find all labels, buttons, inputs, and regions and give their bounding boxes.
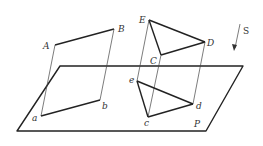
edge-ED	[149, 20, 205, 42]
edge-AB	[55, 29, 114, 45]
edge-CD	[161, 42, 205, 55]
label-E: E	[138, 15, 146, 25]
projector-A-a	[41, 45, 55, 116]
label-d: d	[196, 101, 202, 111]
label-b: b	[102, 101, 108, 111]
edge-ab	[41, 100, 100, 116]
projector-E-e	[137, 20, 149, 81]
label-C: C	[150, 56, 157, 66]
label-A: A	[42, 41, 50, 51]
diagram-canvas: A B a b E C D e c d P S	[0, 0, 263, 146]
projector-D-d	[193, 42, 205, 104]
edge-ed	[137, 81, 193, 104]
edge-EC	[149, 20, 161, 55]
projector-B-b	[100, 29, 114, 100]
direction-arrow-head	[232, 44, 237, 51]
direction-arrow-shaft	[235, 24, 240, 48]
label-a: a	[32, 113, 37, 123]
projection-diagram: A B a b E C D e c d P S	[0, 0, 263, 146]
label-P: P	[193, 119, 201, 129]
label-e: e	[129, 75, 134, 85]
label-D: D	[206, 38, 214, 48]
label-c: c	[144, 118, 149, 128]
label-B: B	[117, 24, 125, 34]
label-S: S	[243, 26, 249, 36]
edge-cd	[148, 104, 193, 117]
edge-ec	[137, 81, 148, 117]
